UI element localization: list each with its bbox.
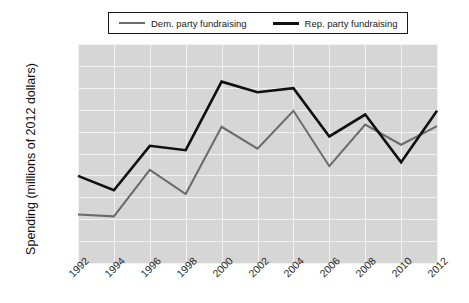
legend-item-dem: Dem. party fundraising xyxy=(119,13,247,33)
plot-area xyxy=(78,44,437,263)
dem-series-line xyxy=(78,111,437,217)
legend-label-rep: Rep. party fundraising xyxy=(305,18,398,29)
legend-item-rep: Rep. party fundraising xyxy=(273,13,398,33)
legend-label-dem: Dem. party fundraising xyxy=(151,18,247,29)
gridline-vertical xyxy=(437,44,438,263)
rep-line-swatch-icon xyxy=(273,22,299,25)
gridline-horizontal xyxy=(78,263,437,264)
fundraising-line-chart: Dem. party fundraising Rep. party fundra… xyxy=(0,0,469,303)
dem-line-swatch-icon xyxy=(119,22,145,24)
rep-series-line xyxy=(78,82,437,191)
series-lines xyxy=(78,44,437,263)
chart-legend: Dem. party fundraising Rep. party fundra… xyxy=(108,12,408,34)
y-axis-title: Spending (millions of 2012 dollars) xyxy=(24,44,38,274)
